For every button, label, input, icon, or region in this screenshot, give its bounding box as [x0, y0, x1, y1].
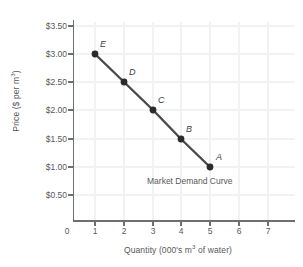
point-label-E: E [100, 39, 106, 49]
x-axis-title-post: of water) [196, 245, 232, 255]
data-point-B [178, 136, 185, 143]
y-tick-label-200: $2.00 [25, 105, 67, 115]
y-tick-label-150: $1.50 [25, 134, 67, 144]
x-tick-label-7: 7 [256, 226, 280, 236]
x-axis-title: Quantity (000's m3 of water) [73, 245, 283, 255]
y-tick-marks [68, 26, 73, 195]
point-label-C: C [158, 95, 165, 105]
y-axis-title-pre: Price ($ per m [11, 77, 21, 132]
data-point-D [121, 79, 128, 86]
y-tick-label-350: $3.50 [25, 21, 67, 31]
point-label-D: D [129, 67, 136, 77]
point-label-A: A [216, 152, 222, 162]
y-tick-label-250: $2.50 [25, 77, 67, 87]
point-label-B: B [186, 124, 192, 134]
axis-lines [73, 20, 295, 222]
x-tick-label-0: 0 [55, 226, 79, 236]
y-axis-title-superscript: 3 [9, 73, 16, 77]
x-tick-label-1: 1 [83, 226, 107, 236]
grid-lines [73, 22, 295, 221]
x-tick-label-6: 6 [227, 226, 251, 236]
data-point-E [92, 51, 99, 58]
y-axis-title-post: ) [11, 70, 21, 73]
market-demand-chart: $3.50 $3.00 $2.50 $2.00 $1.50 $1.00 $0.5… [0, 0, 303, 267]
x-tick-label-4: 4 [169, 226, 193, 236]
y-axis-title: Price ($ per m3) [11, 56, 21, 146]
y-tick-label-100: $1.00 [25, 162, 67, 172]
market-demand-curve-annotation: Market Demand Curve [147, 176, 233, 186]
y-tick-label-050: $0.50 [25, 190, 67, 200]
x-tick-label-2: 2 [112, 226, 136, 236]
x-tick-label-5: 5 [198, 226, 222, 236]
x-axis-title-pre: Quantity (000's m [124, 245, 192, 255]
y-tick-label-300: $3.00 [25, 49, 67, 59]
x-tick-label-3: 3 [141, 226, 165, 236]
data-point-C [150, 107, 157, 114]
data-point-A [207, 164, 214, 171]
